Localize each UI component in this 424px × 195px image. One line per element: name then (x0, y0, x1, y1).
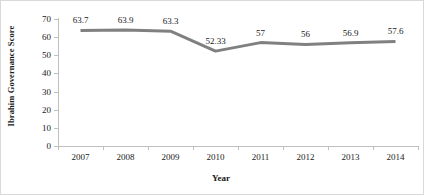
line-chart: Ibrahim Governance Score 010203040506070… (0, 0, 424, 195)
x-axis-title: Year (1, 173, 424, 183)
x-tick-mark (283, 146, 284, 150)
y-tick-label: 0 (25, 142, 51, 151)
x-tick-mark (148, 146, 149, 150)
data-label: 63.7 (73, 16, 89, 25)
y-tick-label: 10 (25, 123, 51, 132)
data-label: 57 (256, 29, 265, 38)
x-tick-label: 2010 (192, 153, 240, 162)
x-tick-label: 2008 (102, 153, 150, 162)
data-label: 63.9 (118, 16, 134, 25)
x-tick-mark (328, 146, 329, 150)
x-tick-label: 2007 (57, 153, 105, 162)
data-label: 63.3 (163, 17, 179, 26)
y-axis-title: Ibrahim Governance Score (3, 1, 19, 151)
y-tick-label: 30 (25, 87, 51, 96)
x-tick-label: 2013 (327, 153, 375, 162)
y-tick-label: 60 (25, 33, 51, 42)
y-tick-label: 70 (25, 15, 51, 24)
x-tick-mark (58, 146, 59, 150)
plot-area: 63.763.963.352.33575656.957.6 (58, 19, 418, 146)
x-tick-label: 2012 (282, 153, 330, 162)
y-tick-label: 50 (25, 51, 51, 60)
data-label: 52.33 (205, 37, 225, 46)
y-axis-title-label: Ibrahim Governance Score (6, 26, 16, 127)
x-axis-title-label: Year (212, 173, 230, 183)
y-tick-label: 40 (25, 69, 51, 78)
series-line (58, 19, 418, 146)
x-tick-mark (193, 146, 194, 150)
x-tick-mark (103, 146, 104, 150)
x-tick-mark (238, 146, 239, 150)
x-tick-label: 2011 (237, 153, 285, 162)
x-tick-mark (418, 146, 419, 150)
data-label: 56 (301, 30, 310, 39)
y-tick-label: 20 (25, 105, 51, 114)
data-label: 57.6 (388, 27, 404, 36)
x-tick-label: 2014 (372, 153, 420, 162)
x-tick-label: 2009 (147, 153, 195, 162)
data-label: 56.9 (343, 29, 359, 38)
x-tick-mark (373, 146, 374, 150)
